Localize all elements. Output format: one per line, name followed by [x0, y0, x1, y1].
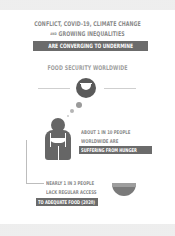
headline-and: AND — [50, 32, 57, 36]
thought-bubble-icon — [67, 115, 69, 117]
thought-bubble-icon — [76, 102, 82, 108]
thought-bubble-icon — [70, 109, 74, 113]
headline-line-2: AND GROWING INEQUALITIES — [16, 30, 160, 38]
bottom-dot-pattern — [0, 224, 175, 236]
stat1-highlight-text: SUFFERING FROM HUNGER — [81, 146, 137, 154]
stat2-line2: LACK REGULAR ACCESS — [46, 189, 97, 195]
connector-horizontal — [26, 183, 44, 184]
divider-left — [38, 88, 70, 89]
stat2-highlight-text: TO ADEQUATE FOOD (2020) — [38, 198, 95, 206]
empty-bowl-icon — [76, 78, 96, 98]
headline-line-1: CONFLICT, COVID-19, CLIMATE CHANGE — [16, 20, 160, 28]
bowl-icon — [112, 183, 136, 197]
stat1-highlight: SUFFERING FROM HUNGER — [79, 146, 152, 154]
stat2-highlight: TO ADEQUATE FOOD (2020) — [36, 198, 98, 206]
top-dot-pattern — [0, 0, 175, 10]
divider-right — [104, 88, 136, 89]
connector-vertical — [26, 140, 27, 183]
stat2-line1: NEARLY 1 IN 3 PEOPLE — [46, 180, 94, 186]
headline-line-4: FOOD SECURITY WORLDWIDE — [16, 64, 160, 72]
headline-highlight: ARE CONVERGING TO UNDERMINE — [33, 41, 148, 51]
stat1-line2: WORLDWIDE ARE — [81, 138, 118, 144]
headline-highlight-text: ARE CONVERGING TO UNDERMINE — [48, 41, 133, 51]
stat1-line1: ABOUT 1 IN 10 PEOPLE — [81, 129, 130, 135]
headline-growing-inequalities: GROWING INEQUALITIES — [59, 30, 125, 38]
